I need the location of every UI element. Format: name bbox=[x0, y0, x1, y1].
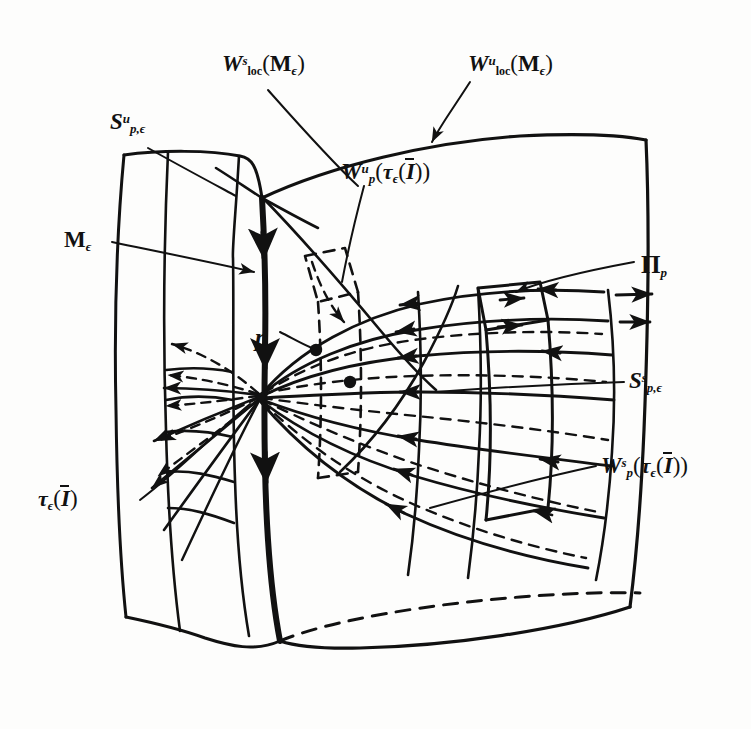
script-m: M bbox=[270, 51, 292, 76]
stable-flow-arrow-7 bbox=[386, 504, 404, 513]
open-paren: ( bbox=[375, 159, 383, 184]
leader-s-stable bbox=[436, 382, 624, 392]
subscript-p-eps: p,ϵ bbox=[130, 121, 145, 136]
stable-flow-arrow-5 bbox=[398, 436, 416, 439]
w-loc-stable-label: Wsloc(Mϵ) bbox=[222, 52, 305, 77]
leader-wu-loc bbox=[432, 82, 470, 142]
tau-symbol: τ bbox=[38, 486, 48, 511]
s-unstable-section-curve bbox=[262, 197, 436, 390]
tau-symbol: τ bbox=[641, 453, 651, 478]
open-paren: ( bbox=[510, 51, 518, 76]
script-m: M bbox=[518, 51, 540, 76]
leader-wu-p bbox=[342, 186, 364, 282]
s-stable-p-eps-label: Ssp,ϵ bbox=[629, 369, 662, 394]
w-symbol: W bbox=[222, 51, 242, 76]
s-symbol: S bbox=[629, 368, 642, 393]
superscript-u: u bbox=[488, 53, 495, 68]
close-paren: ) bbox=[423, 159, 431, 184]
close-paren: ) bbox=[545, 51, 553, 76]
w-loc-unstable-label: Wuloc(Mϵ) bbox=[468, 52, 553, 77]
m-epsilon-arrow-3 bbox=[265, 452, 266, 482]
superscript-u: u bbox=[361, 161, 368, 176]
tau-symbol: τ bbox=[383, 159, 393, 184]
m-epsilon-arrow-1 bbox=[263, 232, 264, 258]
point-p-label: p bbox=[255, 325, 268, 350]
wu-loc-bottom-hidden-edge bbox=[280, 593, 640, 641]
open-paren: ( bbox=[262, 51, 270, 76]
stable-fiber-7 bbox=[260, 401, 588, 568]
top-vertex-cross-right bbox=[262, 198, 318, 228]
pi-symbol: Π bbox=[641, 251, 660, 278]
close-paren-inner: ) bbox=[415, 159, 423, 184]
i-bar-symbol: I bbox=[406, 160, 415, 183]
open-paren-inner: ( bbox=[398, 159, 406, 184]
stable-flow-arrow-6 bbox=[394, 469, 412, 475]
close-paren: ) bbox=[680, 453, 688, 478]
ws-loc-left-edge bbox=[115, 155, 126, 617]
close-paren: ) bbox=[297, 51, 305, 76]
stable-flow-arrow-1 bbox=[400, 303, 418, 305]
i-bar-symbol: I bbox=[61, 487, 70, 510]
outward-arrow-1 bbox=[500, 298, 524, 300]
stable-fiber-5 bbox=[260, 399, 612, 466]
tau-epsilon-I-label: τϵ(I) bbox=[38, 487, 78, 512]
ws-loc-bottom-edge bbox=[126, 617, 280, 647]
w-unstable-p-label: Wup(τϵ(I)) bbox=[341, 160, 430, 185]
subscript-loc: loc bbox=[496, 64, 511, 78]
pi-p-plane-right-edge bbox=[548, 320, 553, 508]
stable-flow-arrow-3 bbox=[398, 356, 416, 358]
leader-pi-p bbox=[516, 262, 634, 292]
tau-epsilon-point-dot bbox=[257, 393, 266, 402]
superscript-u: u bbox=[123, 111, 130, 126]
s-symbol: S bbox=[110, 109, 123, 134]
s-unstable-p-eps-label: Sup,ϵ bbox=[110, 110, 145, 135]
w-symbol: W bbox=[601, 453, 621, 478]
outward-arrow-4 bbox=[616, 294, 652, 295]
subscript-loc: loc bbox=[248, 64, 263, 78]
pi-p-label: Πp bbox=[641, 252, 667, 279]
open-paren: ( bbox=[633, 453, 641, 478]
close-paren: ) bbox=[70, 486, 78, 511]
script-m: M bbox=[64, 227, 86, 252]
w-stable-p-label: Wsp(τϵ(I)) bbox=[601, 454, 688, 479]
point-p-dot bbox=[310, 344, 322, 356]
unstable-fiber-solid-1 bbox=[164, 388, 259, 395]
cross-curve-left bbox=[408, 292, 421, 575]
p-symbol: p bbox=[255, 324, 268, 351]
ws-loc-inner-crease bbox=[164, 152, 180, 631]
subscript-p: p bbox=[660, 265, 667, 280]
w-symbol: W bbox=[341, 159, 361, 184]
leader-point-p bbox=[280, 332, 312, 348]
i-bar-symbol: I bbox=[664, 454, 673, 477]
wu-loc-bottom-edge bbox=[280, 607, 630, 648]
w-symbol: W bbox=[468, 51, 488, 76]
ws-loc-second-crease bbox=[233, 156, 249, 636]
pi-p-plane-bottom-edge bbox=[486, 508, 548, 520]
wu-p-fiber-direction-arrow bbox=[312, 262, 344, 322]
cross-curve-mid bbox=[468, 288, 481, 578]
open-paren-inner: ( bbox=[656, 453, 664, 478]
point-image-dot bbox=[344, 376, 356, 388]
subscript-p-eps: p,ϵ bbox=[647, 380, 662, 395]
ws-ribbon-1 bbox=[166, 368, 232, 372]
m-epsilon-label: Mϵ bbox=[64, 228, 91, 253]
invariant-manifold-figure: Wsloc(Mϵ) Wuloc(Mϵ) Sup,ϵ Wup(τϵ(I)) Mϵ … bbox=[0, 0, 751, 729]
ws-loc-top-edge bbox=[124, 151, 262, 198]
open-paren: ( bbox=[53, 486, 61, 511]
stable-fiber-4 bbox=[260, 392, 614, 400]
wu-p-fiber-right-edge bbox=[358, 292, 361, 472]
epsilon-subscript: ϵ bbox=[86, 239, 92, 254]
wu-loc-top-edge bbox=[262, 135, 646, 198]
